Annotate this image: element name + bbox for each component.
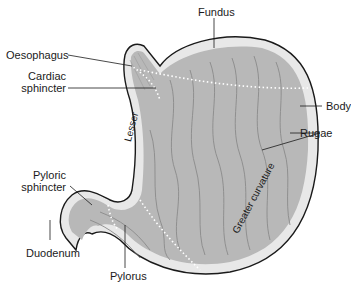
label-cardiac-sphincter-line2: sphincter: [10, 82, 66, 94]
label-oesophagus: Oesophagus: [6, 49, 68, 61]
label-pyloric-sphincter-line1: Pyloric: [14, 169, 66, 181]
label-rugae: Rugae: [300, 127, 332, 139]
label-pylorus: Pylorus: [110, 270, 147, 282]
label-body: Body: [326, 100, 351, 112]
label-cardiac-sphincter-line1: Cardiac: [20, 70, 66, 82]
label-pyloric-sphincter-line2: sphincter: [6, 181, 66, 193]
label-duodenum: Duodenum: [26, 247, 80, 259]
label-fundus: Fundus: [198, 6, 235, 18]
